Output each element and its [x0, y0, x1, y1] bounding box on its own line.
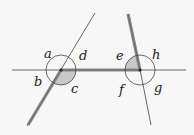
- label-h: h: [152, 47, 160, 62]
- right-intersection-point: [138, 68, 141, 71]
- label-e: e: [116, 48, 124, 63]
- left-intersection-point: [59, 68, 62, 71]
- label-a: a: [44, 46, 52, 61]
- angle-diagram: a b c d e f g h: [0, 0, 194, 135]
- label-d: d: [79, 48, 87, 63]
- label-c: c: [71, 81, 79, 96]
- label-b: b: [34, 74, 42, 89]
- diagram-canvas: a b c d e f g h: [0, 0, 194, 135]
- label-g: g: [154, 80, 162, 95]
- label-f: f: [118, 82, 126, 97]
